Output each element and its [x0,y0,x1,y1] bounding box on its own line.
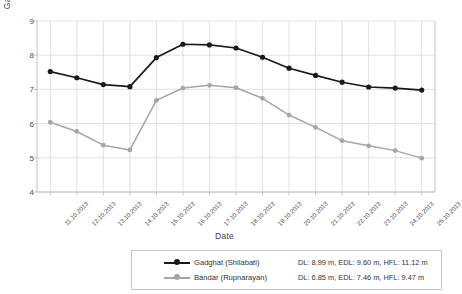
data-point [419,156,424,161]
data-point [101,143,106,148]
x-tick-label: 11.10.2013 [63,200,90,227]
x-tick-label: 19.10.2013 [276,200,303,227]
legend-series-stats: DL: 8.99 m, EDL: 9.60 m, HFL: 11.12 m [298,258,428,267]
y-axis-tick-labels: 456789 [10,0,34,294]
data-point [154,98,159,103]
data-point [419,87,424,92]
x-tick-label: 24.10.2013 [408,200,435,227]
x-tick-label: 22.10.2013 [355,200,382,227]
data-point [340,138,345,143]
legend-marker-icon [164,273,190,283]
x-tick-label: 13.10.2013 [116,200,143,227]
data-point [233,45,238,50]
x-tick-label: 25.10.2013 [435,200,462,227]
x-tick-label: 14.10.2013 [143,200,170,227]
data-point [287,113,292,118]
data-point [181,86,186,91]
y-tick-label: 6 [12,119,34,128]
legend-series-name: Gadghat (Shilabati) [194,258,298,267]
x-tick-label: 18.10.2013 [249,200,276,227]
data-point [127,148,132,153]
legend-series-name: Bandar (Rupnarayan) [194,273,298,282]
x-tick-label: 15.10.2013 [169,200,196,227]
x-tick-label: 16.10.2013 [196,200,223,227]
y-tick-label: 5 [12,153,34,162]
y-tick-label: 7 [12,85,34,94]
data-point [234,85,239,90]
data-point [101,82,106,87]
legend-series-stats: DL: 6.85 m, EDL: 7.46 m, HFL: 9.47 m [298,273,424,282]
legend-marker-icon [164,258,190,268]
x-tick-label: 23.10.2013 [382,200,409,227]
x-tick-label: 21.10.2013 [329,200,356,227]
y-tick-label: 8 [12,51,34,60]
chart-legend: Gadghat (Shilabati)DL: 8.99 m, EDL: 9.60… [131,250,442,290]
data-point [48,120,53,125]
data-point [313,73,318,78]
data-point [48,69,53,74]
x-axis-tick-labels: 11.10.201312.10.201313.10.201314.10.2013… [0,196,449,240]
data-point [393,85,398,90]
x-tick-label: 17.10.2013 [223,200,250,227]
x-tick-label: 12.10.2013 [90,200,117,227]
data-point [207,83,212,88]
data-point [74,75,79,80]
legend-row: Bandar (Rupnarayan)DL: 6.85 m, EDL: 7.46… [132,270,441,285]
data-point [286,66,291,71]
data-point [207,42,212,47]
data-point [313,125,318,130]
data-point [340,80,345,85]
data-point [127,84,132,89]
data-point [260,55,265,60]
data-point [74,129,79,134]
x-tick-label: 20.10.2013 [302,200,329,227]
y-tick-label: 9 [12,17,34,26]
data-point [366,143,371,148]
data-point [180,42,185,47]
legend-row: Gadghat (Shilabati)DL: 8.99 m, EDL: 9.60… [132,255,441,270]
data-point [260,96,265,101]
data-point [154,55,159,60]
data-point [366,84,371,89]
data-point [393,148,398,153]
